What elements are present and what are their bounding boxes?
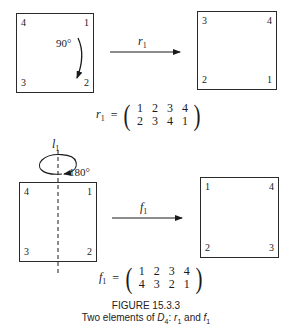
vertex-label: 3 <box>21 78 26 88</box>
r1-name: r1 <box>96 107 105 123</box>
f1-name: f1 <box>99 270 106 286</box>
r1-label-sub: 1 <box>143 41 147 50</box>
vertex-label: 1 <box>205 182 210 192</box>
r1-name-sub: 1 <box>101 114 105 123</box>
f1-arrow-label: f1 <box>140 200 147 216</box>
square-after-rotation: 3 4 2 1 <box>197 11 277 90</box>
rotation-angle-label: 90° <box>56 37 71 49</box>
vertex-label: 2 <box>87 247 92 257</box>
reflection-axis-label: l1 <box>52 137 59 153</box>
matrix-cell: 4 <box>162 115 177 128</box>
right-paren: ) <box>196 263 203 293</box>
matrix-cell: 1 <box>179 278 194 291</box>
f1-label-sub: 1 <box>143 207 147 216</box>
left-paren: ( <box>124 100 131 130</box>
caption-group: D <box>157 312 164 323</box>
vertex-label: 2 <box>84 78 89 88</box>
matrix-cell: 3 <box>149 278 164 291</box>
vertex-label: 2 <box>202 75 207 85</box>
vertex-label: 4 <box>24 187 29 197</box>
figure-number: FIGURE 15.3.3 <box>0 300 292 312</box>
vertex-label: 4 <box>21 18 26 28</box>
matrix-cell: 1 <box>177 115 192 128</box>
reflection-angle-label: 180° <box>69 166 90 178</box>
left-paren: ( <box>126 263 133 293</box>
caption-and: and <box>181 312 203 323</box>
axis-label-sub: 1 <box>55 144 59 153</box>
vertex-label: 3 <box>202 16 207 26</box>
right-paren: ) <box>194 100 201 130</box>
vertex-label: 2 <box>205 243 210 253</box>
vertex-label: 4 <box>269 182 274 192</box>
f1-permutation-matrix: ( 1 2 3 4 4 3 2 1 ) <box>124 263 204 293</box>
figure-caption: Two elements of D4: r1 and f1 <box>0 312 292 328</box>
r1-arrow-label: r1 <box>138 34 147 50</box>
vertex-label: 1 <box>267 75 272 85</box>
matrix-cell: 2 <box>132 115 147 128</box>
vertex-label: 3 <box>269 243 274 253</box>
square-after-reflection: 1 4 2 3 <box>200 177 279 258</box>
caption-elem2-sub: 1 <box>206 318 210 325</box>
matrix-cell: 3 <box>147 115 162 128</box>
r1-permutation-matrix: ( 1 2 3 4 2 3 4 1 ) <box>122 100 202 130</box>
vertex-label: 3 <box>24 247 29 257</box>
matrix-bottom-row: 4 3 2 1 <box>134 278 194 291</box>
matrix-bottom-row: 2 3 4 1 <box>132 115 192 128</box>
equals-sign: = <box>111 108 118 123</box>
matrix-cell: 4 <box>134 278 149 291</box>
vertex-label: 1 <box>84 18 89 28</box>
square-before-reflection: 4 1 3 2 <box>19 182 97 262</box>
vertex-label: 4 <box>267 16 272 26</box>
vertex-label: 1 <box>87 187 92 197</box>
f1-name-sub: 1 <box>102 277 106 286</box>
f1-permutation-equation: f1 = ( 1 2 3 4 4 3 2 1 ) <box>99 263 204 293</box>
caption-prefix: Two elements of <box>82 312 158 323</box>
r1-permutation-equation: r1 = ( 1 2 3 4 2 3 4 1 ) <box>96 100 202 130</box>
equals-sign: = <box>112 271 119 286</box>
square-before-rotation: 4 1 3 2 <box>16 13 94 93</box>
matrix-cell: 2 <box>164 278 179 291</box>
